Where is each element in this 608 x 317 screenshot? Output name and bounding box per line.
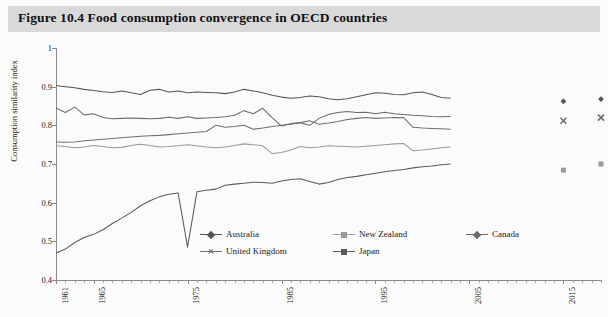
y-tick-label: 0.5 (41, 236, 52, 246)
figure-container: Figure 10.4 Food consumption convergence… (0, 0, 608, 317)
legend-label: Australia (226, 230, 259, 239)
x-tick-minor (197, 281, 198, 283)
legend-item-australia[interactable]: Australia (200, 230, 259, 239)
legend-label: New Zealand (359, 230, 407, 239)
x-tick-minor (300, 281, 301, 283)
x-tick-minor (592, 281, 593, 283)
x-tick-minor (535, 281, 536, 283)
y-tick-label: 0.8 (41, 120, 52, 130)
x-tick-label: 2005 (473, 287, 483, 304)
x-tick-minor (216, 281, 217, 283)
series-line-new-zealand (56, 144, 451, 154)
x-tick-minor (310, 281, 311, 283)
x-tick-minor (601, 281, 602, 283)
x-tick-minor (131, 281, 132, 283)
legend-item-canada[interactable]: Canada (466, 230, 519, 239)
y-tick-label: 0.6 (41, 198, 52, 208)
x-tick-minor (394, 281, 395, 283)
scatter-marker-united-kingdom (560, 118, 566, 124)
x-tick-label: 2015 (567, 287, 577, 304)
x-tick-minor (479, 281, 480, 283)
x-tick-label: 1995 (379, 287, 389, 304)
x-tick-minor (112, 281, 113, 283)
x-tick-minor (122, 281, 123, 283)
x-tick-minor (141, 281, 142, 283)
x-tick-minor (516, 281, 517, 283)
x-tick-minor (244, 281, 245, 283)
x-tick-minor (206, 281, 207, 283)
x-tick-minor (366, 281, 367, 283)
x-tick-minor (272, 281, 273, 283)
x-tick-label: 1975 (191, 287, 201, 304)
legend-item-new-zealand[interactable]: New Zealand (333, 230, 407, 239)
x-tick-minor (582, 281, 583, 283)
x-tick-minor (338, 281, 339, 283)
legend-label: Japan (359, 247, 380, 256)
x-tick-minor (253, 281, 254, 283)
x-tick-minor (159, 281, 160, 283)
x-tick-mark (375, 281, 376, 284)
x-tick-minor (329, 281, 330, 283)
x-tick-minor (357, 281, 358, 283)
x-tick-mark (282, 281, 283, 284)
x-tick-minor (404, 281, 405, 283)
x-tick-minor (347, 281, 348, 283)
scatter-marker-australia (598, 96, 604, 102)
legend-label: United Kingdom (226, 247, 287, 256)
scatter-marker-australia (561, 98, 567, 104)
x-tick-label: 1961 (60, 287, 70, 304)
legend-marker-square-icon (333, 230, 355, 239)
x-tick-minor (413, 281, 414, 283)
series-line-australia (56, 86, 451, 100)
x-tick-minor (103, 281, 104, 283)
x-tick-minor (498, 281, 499, 283)
x-tick-minor (451, 281, 452, 283)
series-line-canada (56, 107, 451, 126)
x-tick-minor (319, 281, 320, 283)
chart-legend: AustraliaNew ZealandCanadaUnited Kingdom… (200, 230, 600, 266)
x-tick-minor (460, 281, 461, 283)
series-line-united-kingdom (56, 118, 451, 143)
x-tick-minor (488, 281, 489, 283)
x-tick-minor (225, 281, 226, 283)
legend-marker-square-icon (333, 247, 355, 256)
legend-label: Canada (492, 230, 519, 239)
x-tick-minor (554, 281, 555, 283)
x-tick-minor (507, 281, 508, 283)
x-tick-mark (94, 281, 95, 284)
scatter-marker-new-zealand (599, 162, 604, 167)
legend-item-united-kingdom[interactable]: United Kingdom (200, 247, 287, 256)
x-tick-label: 1985 (285, 287, 295, 304)
x-tick-label: 1965 (97, 287, 107, 304)
x-tick-minor (526, 281, 527, 283)
y-tick-label: 0.7 (41, 159, 52, 169)
figure-title: Figure 10.4 Food consumption convergence… (18, 10, 387, 26)
y-tick-label: 0.9 (41, 82, 52, 92)
x-tick-minor (291, 281, 292, 283)
y-axis-ticks: 10.90.80.70.60.50.4 (0, 0, 52, 317)
x-tick-mark (563, 281, 564, 284)
x-tick-minor (573, 281, 574, 283)
x-tick-minor (84, 281, 85, 283)
x-tick-minor (263, 281, 264, 283)
x-tick-minor (178, 281, 179, 283)
x-tick-minor (385, 281, 386, 283)
scatter-marker-united-kingdom (598, 115, 604, 121)
x-tick-minor (235, 281, 236, 283)
legend-marker-diamond-icon (200, 230, 222, 239)
legend-marker-x-icon (200, 247, 222, 256)
x-tick-minor (441, 281, 442, 283)
x-tick-mark (188, 281, 189, 284)
x-tick-minor (65, 281, 66, 283)
legend-item-japan[interactable]: Japan (333, 247, 380, 256)
x-tick-mark (469, 281, 470, 284)
legend-marker-diamond-icon (466, 230, 488, 239)
y-tick-label: 0.4 (41, 275, 52, 285)
scatter-marker-new-zealand (561, 168, 566, 173)
x-tick-minor (75, 281, 76, 283)
x-tick-minor (150, 281, 151, 283)
x-tick-minor (169, 281, 170, 283)
x-tick-mark (56, 281, 57, 284)
x-tick-minor (432, 281, 433, 283)
x-tick-minor (422, 281, 423, 283)
